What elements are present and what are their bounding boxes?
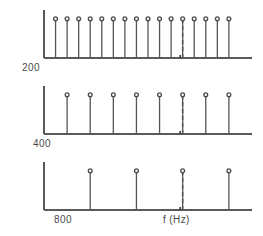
stem-marker — [88, 169, 92, 173]
stem-marker — [227, 17, 231, 21]
stem-marker — [158, 17, 162, 21]
stem-marker — [158, 93, 162, 97]
stem-marker — [135, 17, 139, 21]
stem-marker — [88, 93, 92, 97]
stem-marker — [111, 93, 115, 97]
spectrum-panel-400: 400 — [0, 80, 263, 142]
spectrum-figure: 200 400 800 f (Hz) — [0, 0, 263, 236]
panel-label-400: 400 — [33, 138, 51, 149]
stem-marker — [227, 93, 231, 97]
stem-marker — [204, 93, 208, 97]
stem-marker — [135, 169, 139, 173]
stem-marker — [204, 17, 208, 21]
stem-marker — [135, 93, 139, 97]
panel-label-800: 800 — [54, 214, 72, 225]
stem-plot-800 — [0, 156, 263, 218]
stem-marker — [100, 17, 104, 21]
stem-marker — [77, 17, 81, 21]
stem-plot-200 — [0, 4, 263, 66]
stem-marker — [192, 17, 196, 21]
panel-label-200: 200 — [22, 62, 40, 73]
stem-marker — [54, 17, 58, 21]
stem-marker — [181, 93, 185, 97]
x-axis-label: f (Hz) — [163, 214, 190, 225]
stem-marker — [111, 17, 115, 21]
stem-marker — [181, 169, 185, 173]
stem-marker — [215, 17, 219, 21]
stem-marker — [65, 93, 69, 97]
spectrum-panel-800: 800 f (Hz) — [0, 156, 263, 218]
spectrum-panel-200: 200 — [0, 4, 263, 66]
stem-marker — [146, 17, 150, 21]
stem-marker — [123, 17, 127, 21]
stem-marker — [227, 169, 231, 173]
stem-marker — [88, 17, 92, 21]
stem-marker — [65, 17, 69, 21]
stem-marker — [169, 17, 173, 21]
stem-plot-400 — [0, 80, 263, 142]
stem-marker — [181, 17, 185, 21]
